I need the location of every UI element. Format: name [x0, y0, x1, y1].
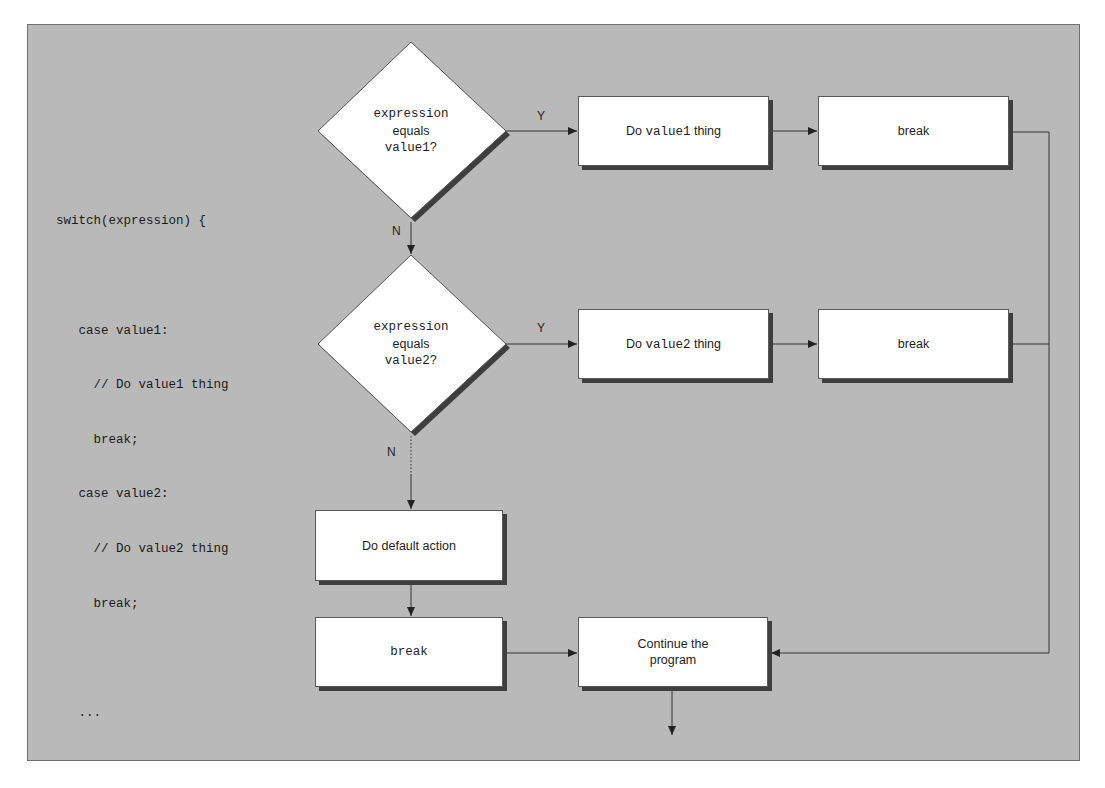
decision-2-text: expression equals value2? [340, 319, 482, 370]
decision-2-line2: equals [340, 336, 482, 353]
action-code: value2 [645, 338, 690, 352]
decision-2-line1: expression [340, 319, 482, 336]
yes-label-1: Y [537, 109, 545, 123]
default-break-box: break [315, 617, 503, 687]
no-label-2: N [387, 445, 396, 459]
continue-line1: Continue the [638, 636, 709, 652]
decision-1-text: expression equals value1? [340, 106, 482, 157]
decision-1-line1: expression [340, 106, 482, 123]
decision-2-line3: value2? [340, 353, 482, 370]
action-prefix: Do [626, 337, 645, 351]
break-box-1: break [818, 96, 1009, 166]
break-text-2: break [898, 336, 929, 352]
default-action-box: Do default action [315, 510, 503, 581]
default-action-text: Do default action [362, 538, 456, 554]
break-box-2: break [818, 309, 1009, 379]
continue-program-box: Continue the program [578, 617, 768, 687]
return-line [771, 132, 1049, 653]
action-prefix: Do [626, 124, 645, 138]
action-value2-box: Do value2 thing [578, 309, 769, 379]
decision-1-line2: equals [340, 123, 482, 140]
decision-1-line3: value1? [340, 140, 482, 157]
action-value1-text: Do value1 thing [626, 123, 721, 140]
default-break-text: break [390, 644, 428, 660]
continue-line2: program [650, 652, 697, 668]
action-value1-box: Do value1 thing [578, 96, 769, 166]
action-value2-text: Do value2 thing [626, 336, 721, 353]
action-code: value1 [645, 125, 690, 139]
yes-label-2: Y [537, 321, 545, 335]
no-label-1: N [392, 224, 401, 238]
break-text-1: break [898, 123, 929, 139]
action-suffix: thing [690, 124, 721, 138]
action-suffix: thing [690, 337, 721, 351]
